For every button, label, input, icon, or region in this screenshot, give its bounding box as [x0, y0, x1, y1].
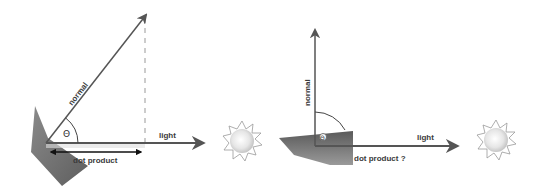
surface [279, 131, 353, 165]
angle-label: Θ [63, 129, 70, 139]
normal-label: normal [66, 81, 90, 108]
sun-icon [223, 121, 262, 161]
light-label: light [159, 131, 176, 140]
sun-icon [477, 120, 516, 160]
diagram-perpendicular: Θ dot product ? light normal [279, 30, 516, 165]
dot-product-label: dot product ? [354, 154, 406, 163]
angle-arc [315, 112, 345, 130]
diagram-angled: Θ dot product light normal [31, 15, 262, 186]
light-label: light [417, 133, 434, 142]
dot-product-label: dot product [73, 156, 118, 165]
normal-label: normal [303, 79, 312, 106]
projection-band [46, 144, 145, 148]
angle-label: Θ [320, 134, 325, 141]
lighting-diagram: Θ dot product light normal Θ dot product… [0, 0, 544, 196]
normal-vector [46, 15, 146, 143]
